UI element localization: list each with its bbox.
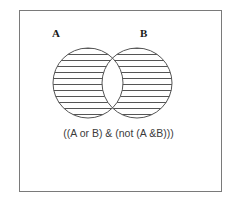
set-label-b: B [140, 28, 147, 39]
figure-frame [19, 10, 222, 192]
set-label-a: A [52, 28, 60, 39]
formula-caption: ((A or B) & (not (A &B))) [0, 127, 237, 140]
